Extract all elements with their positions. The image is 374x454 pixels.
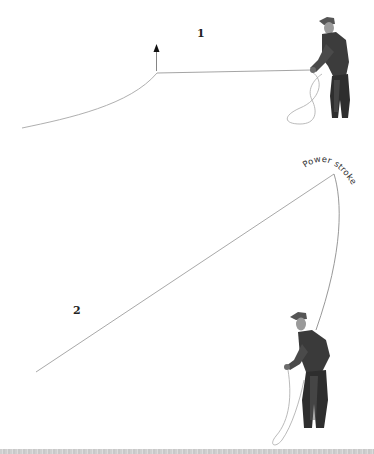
step-label-1: 1 <box>197 27 205 40</box>
rod-line-1 <box>157 70 312 73</box>
up-arrow-icon <box>154 44 160 71</box>
fly-line-2 <box>36 174 334 372</box>
step-label-2: 2 <box>73 304 81 317</box>
line-coil-2 <box>273 370 304 445</box>
step-2-illustration: Power stroke <box>36 154 359 445</box>
power-stroke-label: Power stroke <box>301 154 359 187</box>
bottom-border-band <box>0 449 374 454</box>
fly-line-1 <box>22 73 157 128</box>
fisherman-figure-1 <box>310 17 350 118</box>
diagram-drawing: Power stroke <box>0 0 374 454</box>
rod-2 <box>316 174 339 330</box>
fisherman-figure-2 <box>284 312 330 428</box>
fly-casting-diagram: Power stroke 1 2 <box>0 0 374 454</box>
step-1-illustration <box>22 17 350 128</box>
line-coil-1 <box>287 72 322 124</box>
